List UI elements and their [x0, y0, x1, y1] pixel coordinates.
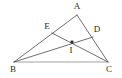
segment-BD — [14, 37, 93, 62]
vertex-label-C: C — [106, 64, 112, 74]
geometry-canvas: A B C D E I — [0, 0, 122, 78]
vertex-label-B: B — [10, 64, 16, 74]
point-marker-I — [71, 41, 74, 44]
vertex-label-A: A — [74, 1, 81, 11]
vertex-label-I: I — [70, 45, 73, 55]
vertex-label-E: E — [44, 21, 50, 31]
segment-AC — [77, 15, 108, 62]
vertex-label-D: D — [94, 24, 101, 34]
geometry-figure: A B C D E I — [0, 0, 122, 78]
